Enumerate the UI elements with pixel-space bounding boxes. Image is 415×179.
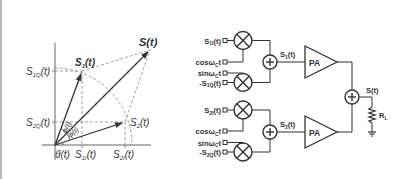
summer-1: [263, 55, 277, 69]
label-s1-t: S1(t): [75, 57, 96, 69]
label-load-rl: RL: [379, 111, 387, 121]
label-signal-s1: S1(t): [280, 50, 296, 60]
input-s2i: S2I(t): [204, 106, 221, 116]
mixer-3: [234, 101, 252, 119]
label-s2i: S2I(t): [113, 149, 134, 161]
summer-2: [263, 125, 277, 139]
label-output-s: S(t): [366, 86, 379, 95]
pa-2-label: PA: [309, 128, 320, 138]
label-s-t: S(t): [139, 36, 158, 48]
outphasing-circuit: [223, 32, 376, 162]
phasor-diagram: S(t) S1(t) S2(t) S1Q(t) S2Q(t) θ(t) S1I(…: [26, 36, 158, 161]
input-s2q: -S2Q(t): [199, 148, 221, 158]
mixer-2: [234, 74, 252, 92]
label-s2q: S2Q(t): [26, 117, 50, 129]
input-s1i: S1I(t): [204, 37, 221, 47]
label-s1q: S1Q(t): [26, 66, 50, 78]
input-sin-top: sinωCt: [198, 69, 222, 79]
input-cos-top: cosωCt: [196, 58, 222, 68]
label-s2-t: S2(t): [130, 117, 149, 129]
ground-symbol: [368, 132, 376, 136]
label-theta: θ(t): [55, 149, 70, 160]
mixer-1: [234, 32, 252, 50]
input-cos-bottom: cosωCt: [196, 127, 222, 137]
input-sin-bottom: sinωCt: [198, 139, 222, 149]
pa-1-label: PA: [309, 58, 320, 68]
diagram-canvas: S(t) S1(t) S2(t) S1Q(t) S2Q(t) θ(t) S1I(…: [0, 0, 415, 179]
summer-output: [345, 90, 359, 104]
mixer-4: [234, 143, 252, 161]
label-signal-s2: S2(t): [280, 120, 296, 130]
load-resistor: [369, 107, 375, 123]
input-s1q: -S1Q(t): [199, 79, 221, 89]
label-s1i: S1I(t): [75, 149, 96, 161]
